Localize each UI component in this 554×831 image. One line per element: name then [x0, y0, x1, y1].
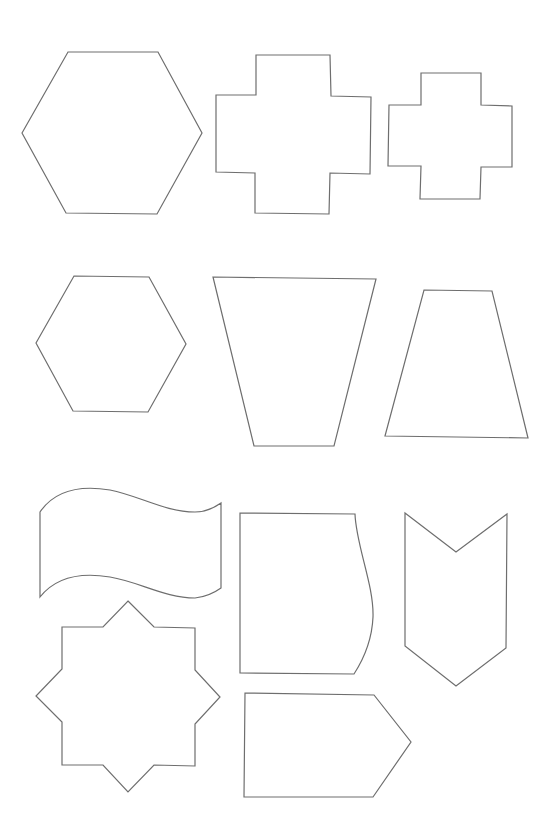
tag-pentagon — [244, 693, 411, 797]
hexagon-large — [22, 52, 202, 214]
hexagon-medium — [36, 276, 186, 412]
eight-point-star — [36, 601, 220, 792]
trapezoid-inverted — [213, 277, 376, 446]
chevron-down — [405, 513, 507, 686]
shapes-canvas — [0, 0, 554, 831]
cross-large — [216, 55, 371, 214]
wavy-flag — [40, 488, 221, 598]
cross-small — [388, 73, 512, 199]
trapezoid-upright — [385, 290, 528, 438]
curved-side-rect — [240, 513, 373, 674]
